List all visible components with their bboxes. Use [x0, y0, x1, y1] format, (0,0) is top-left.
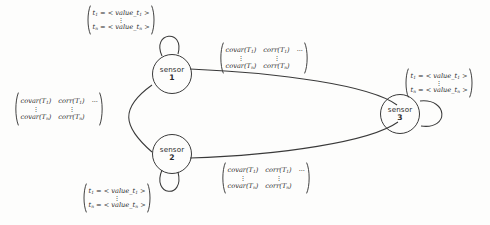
node-sensor-3-label: sensor	[388, 106, 412, 114]
node-sensor-1[interactable]: sensor 1	[152, 54, 192, 94]
edge-sensor-2-sensor-3	[190, 122, 398, 158]
matrix-vdots-covar: ⋮	[21, 106, 52, 113]
matrix-cell-corr-first: corr(T1)	[265, 166, 291, 175]
right-paren-icon	[151, 5, 156, 35]
matrix-ellipsis: ...	[92, 96, 98, 106]
matrix-ellipsis: ...	[299, 165, 305, 175]
edge-sensor-1-sensor-3	[190, 69, 397, 105]
matrix-vdots-corr: ⋮	[265, 175, 291, 182]
matrix-label-edge-sensor-1-sensor-3: covar(T1) corr(T1) ... ⋮ ⋮ covar(Tn) cor…	[219, 42, 309, 74]
matrix-cell-corr-last: corr(Tn)	[58, 113, 84, 122]
right-paren-icon	[469, 68, 474, 98]
right-paren-icon	[99, 92, 104, 126]
matrix-cell-covar-first: covar(T1)	[228, 166, 259, 175]
vector-row-last: tn = < value_tn >	[411, 86, 468, 94]
matrix-vdots-covar: ⋮	[228, 175, 259, 182]
right-paren-icon	[304, 42, 309, 74]
matrix-cell-covar-first: covar(T1)	[21, 97, 52, 106]
matrix-cell-covar-last: covar(Tn)	[226, 62, 257, 71]
self-loop-sensor-1	[160, 36, 179, 56]
matrix-label-edge-sensor-2-sensor-3: covar(T1) corr(T1) ... ⋮ ⋮ covar(Tn) cor…	[221, 162, 311, 194]
matrix-vdots-corr: ⋮	[58, 106, 84, 113]
node-sensor-2-index: 2	[169, 154, 174, 162]
matrix-cell-corr-last: corr(Tn)	[265, 182, 291, 191]
matrix-ellipsis: ...	[297, 45, 303, 55]
right-paren-icon	[306, 162, 311, 194]
node-sensor-1-index: 1	[169, 74, 174, 82]
vector-label-sensor-3: t1 = < value_t1 > ⋮ tn = < value_tn >	[404, 68, 474, 98]
matrix-cell-corr-first: corr(T1)	[58, 97, 84, 106]
node-sensor-3-index: 3	[397, 114, 402, 122]
vector-label-sensor-2: t1 = < value_t1 > ⋮ tn = < value_tn >	[82, 183, 152, 213]
matrix-vdots-corr: ⋮	[263, 55, 289, 62]
matrix-label-edge-left: covar(T1) corr(T1) ... ⋮ ⋮ covar(Tn) cor…	[14, 92, 104, 126]
node-sensor-2-label: sensor	[160, 146, 184, 154]
node-sensor-2[interactable]: sensor 2	[152, 134, 192, 174]
diagram-canvas: sensor 1 sensor 2 sensor 3 t1 = < value_…	[0, 0, 490, 225]
node-sensor-1-label: sensor	[160, 66, 184, 74]
vector-row-last: tn = < value_tn >	[93, 23, 150, 31]
matrix-vdots-covar: ⋮	[226, 55, 257, 62]
matrix-cell-covar-first: covar(T1)	[226, 46, 257, 55]
right-paren-icon	[147, 183, 152, 213]
edge-sensor-1-sensor-2	[129, 85, 152, 152]
vector-row-last: tn = < value_tn >	[89, 201, 146, 209]
matrix-cell-covar-last: covar(Tn)	[228, 182, 259, 191]
self-loop-sensor-3	[420, 101, 442, 127]
matrix-cell-corr-last: corr(Tn)	[263, 62, 289, 71]
matrix-cell-corr-first: corr(T1)	[263, 46, 289, 55]
vector-label-sensor-1: t1 = < value_t1 > ⋮ tn = < value_tn >	[86, 5, 156, 35]
node-sensor-3[interactable]: sensor 3	[380, 94, 420, 134]
matrix-cell-covar-last: covar(Tn)	[21, 113, 52, 122]
